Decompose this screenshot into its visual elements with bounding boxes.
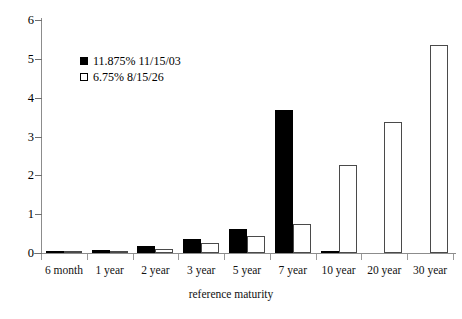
bar-3-year-series-2: [201, 243, 219, 253]
bar-2-year-series-1: [137, 246, 155, 253]
bar-chart: 0123456 6 month1 year2 year3 year5 year7…: [0, 0, 462, 319]
legend-item-1: 11.875% 11/15/03: [80, 53, 181, 69]
bar-10-year-series-2: [339, 165, 357, 253]
bar-1-year-series-2: [110, 251, 128, 253]
legend-item-2: 6.75% 8/15/26: [80, 69, 181, 85]
x-tick-2: [133, 254, 134, 260]
x-tick-8: [407, 254, 408, 260]
bar-3-year-series-1: [183, 239, 201, 253]
x-tick-6: [316, 254, 317, 260]
x-label-30-year: 30 year: [401, 264, 459, 277]
y-tick-label-5: 5: [14, 53, 34, 65]
y-tick-label-1: 1: [14, 208, 34, 220]
bar-10-year-series-1: [321, 251, 339, 253]
bar-6-month-series-2: [64, 251, 82, 253]
bar-2-year-series-2: [155, 249, 173, 253]
y-tick-label-2: 2: [14, 169, 34, 181]
x-tick-0: [41, 254, 42, 260]
x-axis-line: [34, 253, 456, 254]
bar-7-year-series-2: [293, 224, 311, 253]
y-tick-label-3: 3: [14, 131, 34, 143]
x-tick-9: [453, 254, 454, 260]
legend-label-1: 11.875% 11/15/03: [93, 54, 181, 69]
x-tick-4: [224, 254, 225, 260]
chart-legend: 11.875% 11/15/036.75% 8/15/26: [80, 53, 181, 85]
y-tick-label-6: 6: [14, 14, 34, 26]
x-tick-1: [87, 254, 88, 260]
bar-1-year-series-1: [92, 250, 110, 253]
bar-7-year-series-1: [275, 110, 293, 253]
x-tick-3: [178, 254, 179, 260]
bar-20-year-series-2: [384, 122, 402, 253]
bar-5-year-series-2: [247, 236, 265, 253]
x-tick-7: [361, 254, 362, 260]
bar-6-month-series-1: [46, 251, 64, 253]
bar-30-year-series-2: [430, 45, 448, 253]
legend-swatch-icon-2: [80, 73, 88, 81]
x-axis-title: reference maturity: [0, 288, 462, 300]
y-tick-label-4: 4: [14, 92, 34, 104]
legend-label-2: 6.75% 8/15/26: [93, 70, 164, 85]
x-tick-5: [270, 254, 271, 260]
legend-swatch-icon-1: [80, 57, 88, 65]
y-tick-label-0: 0: [14, 247, 34, 259]
bar-5-year-series-1: [229, 229, 247, 253]
